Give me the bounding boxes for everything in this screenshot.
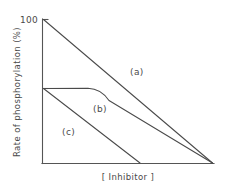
curve-a-line	[44, 20, 213, 164]
curve-b-label: (b)	[93, 104, 107, 114]
y-axis-title: Rate of phosphorylation (%)	[12, 27, 22, 157]
y-axis-tick-label-100: 100	[20, 15, 38, 25]
curve-c-line	[44, 89, 141, 164]
chart-plot-area: 100 Rate of phosphorylation (%) [ Inhibi…	[0, 0, 231, 185]
x-axis-title: [ Inhibitor ]	[102, 172, 155, 182]
chart-figure: 100 Rate of phosphorylation (%) [ Inhibi…	[0, 0, 231, 185]
curve-b-line	[44, 88, 213, 163]
curve-c-label: (c)	[62, 127, 75, 137]
curve-a-label: (a)	[130, 67, 144, 77]
